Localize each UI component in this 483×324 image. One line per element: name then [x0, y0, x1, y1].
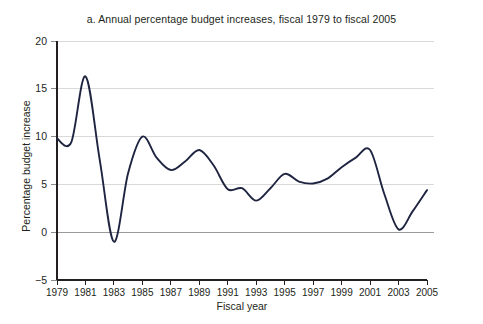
- x-tick-label-2005: 2005: [416, 287, 439, 298]
- line-chart-plot: −505101520 19791981198319851987198919911…: [0, 0, 483, 324]
- y-tick-label-5: 5: [41, 178, 47, 190]
- x-tick-label-1999: 1999: [330, 287, 353, 298]
- x-tick-label-1993: 1993: [245, 287, 268, 298]
- x-axis-ticks-group: 1979198119831985198719891991199319951997…: [46, 280, 439, 298]
- x-tick-label-1989: 1989: [188, 287, 211, 298]
- y-tick-label-10: 10: [35, 130, 47, 142]
- x-tick-label-1983: 1983: [103, 287, 126, 298]
- x-tick-label-1985: 1985: [131, 287, 154, 298]
- x-tick-label-1995: 1995: [274, 287, 297, 298]
- x-tick-label-1979: 1979: [46, 287, 69, 298]
- x-tick-label-1987: 1987: [160, 287, 183, 298]
- y-tick-label-20: 20: [35, 35, 47, 47]
- y-tick-label-15: 15: [35, 82, 47, 94]
- y-tick-label--5: −5: [35, 274, 47, 286]
- x-tick-label-2003: 2003: [387, 287, 410, 298]
- x-tick-label-1997: 1997: [302, 287, 325, 298]
- y-tick-label-0: 0: [41, 226, 47, 238]
- y-axis-ticks-group: −505101520: [35, 35, 57, 286]
- x-tick-label-2001: 2001: [359, 287, 382, 298]
- gridlines-group: [57, 41, 434, 232]
- data-series-line: [57, 76, 427, 242]
- x-tick-label-1981: 1981: [74, 287, 97, 298]
- figure-panel: a. Annual percentage budget increases, f…: [0, 0, 483, 324]
- x-tick-label-1991: 1991: [217, 287, 240, 298]
